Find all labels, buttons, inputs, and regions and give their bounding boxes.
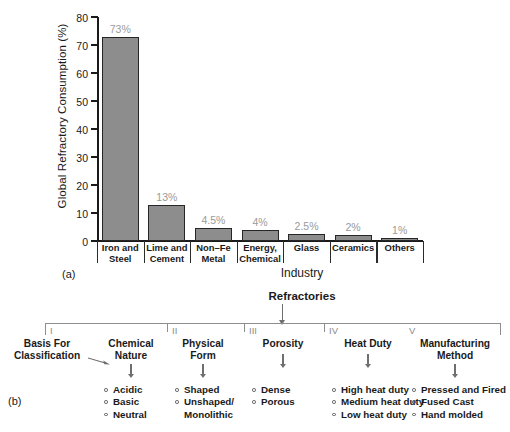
x-axis-title-text: Industry <box>281 266 324 280</box>
column-item-list: AcidicBasicNeutral <box>104 384 147 421</box>
y-tick-label: 10 <box>60 208 88 220</box>
bar <box>381 238 418 241</box>
list-item-label: Porous <box>261 396 295 407</box>
list-item[interactable]: Pressed and Fired <box>412 384 506 396</box>
bullet-circle-icon <box>252 388 256 392</box>
branch-numeral: IV <box>329 325 338 336</box>
bullet-circle-icon <box>332 400 336 404</box>
list-item[interactable]: Porous <box>252 396 295 408</box>
x-category-separator <box>97 241 98 263</box>
x-tick-label-line: Ceramics <box>330 243 377 254</box>
branch-drop-line <box>500 323 501 335</box>
column-arrow-head-icon <box>365 364 371 368</box>
list-item[interactable]: Neutral <box>104 409 147 421</box>
list-item-label: Shaped <box>184 384 219 395</box>
column-title: ChemicalNature <box>91 338 171 361</box>
list-item[interactable]: Medium heat duty <box>332 396 424 408</box>
list-item-label: Dense <box>261 384 290 395</box>
branch-numeral: III <box>249 325 257 336</box>
x-tick-label-line: Iron and <box>97 243 144 254</box>
list-item-label: Acidic <box>113 384 142 395</box>
y-axis-title: Global Refractory Consumption (%) <box>56 6 68 226</box>
list-item-label: High heat duty <box>341 384 409 395</box>
bar <box>148 205 185 241</box>
list-item[interactable]: Low heat duty <box>332 409 424 421</box>
column-item-list: High heat dutyMedium heat dutyLow heat d… <box>332 384 424 421</box>
column-title-line: Manufacturing <box>400 338 510 350</box>
classification-diagram-panel: Refractories IIIIIIIVV Basis ForClassifi… <box>0 290 510 432</box>
y-tick-label: 40 <box>60 124 88 136</box>
column-arrow-head-icon <box>452 374 458 378</box>
list-item[interactable]: Acidic <box>104 384 147 396</box>
x-tick-label: Glass <box>283 243 330 254</box>
bar-series <box>97 17 423 241</box>
column-title: Porosity <box>243 338 323 350</box>
column-item-list: Pressed and FiredFused CastHand molded <box>412 384 506 421</box>
bullet-circle-icon <box>252 400 256 404</box>
branch-drop-line <box>324 323 325 332</box>
diagram-column: PhysicalForm <box>160 338 246 361</box>
y-tick-label: 80 <box>60 12 88 24</box>
column-title-line: Nature <box>91 350 171 362</box>
basis-label-line: Classification <box>4 350 90 362</box>
list-item[interactable]: Shaped <box>175 384 234 396</box>
column-title-line: Form <box>160 350 246 362</box>
branch-numeral: II <box>172 325 177 336</box>
x-tick-label-line: Metal <box>190 254 237 265</box>
bullet-circle-icon <box>412 388 416 392</box>
list-item[interactable]: High heat duty <box>332 384 424 396</box>
column-arrow-head-icon <box>280 364 286 368</box>
bullet-circle-icon <box>104 388 108 392</box>
diagram-column: Porosity <box>243 338 323 350</box>
column-title-line: Physical <box>160 338 246 350</box>
bar-value-label: 1% <box>372 224 427 236</box>
list-item[interactable]: Basic <box>104 396 147 408</box>
branch-drop-line <box>45 323 46 335</box>
bar-value-label: 13% <box>140 191 195 203</box>
bullet-circle-icon <box>412 400 416 404</box>
x-tick-label-line: Steel <box>97 254 144 265</box>
y-tick-label: 0 <box>60 236 88 248</box>
bar <box>195 228 232 241</box>
column-item-list: DensePorous <box>252 384 295 409</box>
bar <box>102 37 139 241</box>
column-item-list: ShapedUnshaped/Monolithic <box>175 384 234 421</box>
y-tick-label: 70 <box>60 40 88 52</box>
list-item-label: Neutral <box>113 409 147 420</box>
y-tick-label: 30 <box>60 152 88 164</box>
list-item-label: Fused Cast <box>421 396 474 407</box>
x-tick-label: Non–FeMetal <box>190 243 237 264</box>
bar <box>335 235 372 241</box>
x-tick-label: Energy,Chemical <box>237 243 284 264</box>
x-tick-label: Ceramics <box>330 243 377 254</box>
list-item[interactable]: Hand molded <box>412 409 506 421</box>
list-item[interactable]: Fused Cast <box>412 396 506 408</box>
list-item[interactable]: Dense <box>252 384 295 396</box>
y-tick-label: 60 <box>60 68 88 80</box>
y-tick-label: 50 <box>60 96 88 108</box>
list-item-label: Basic <box>113 396 139 407</box>
branch-numeral: V <box>409 325 415 336</box>
diagram-horizontal-bus <box>45 323 501 324</box>
bullet-circle-icon <box>332 388 336 392</box>
x-axis-title: Industry <box>0 266 510 280</box>
x-tick-label-line: Others <box>376 243 423 254</box>
x-tick-label-line: Cement <box>144 254 191 265</box>
bullet-circle-icon <box>104 400 108 404</box>
x-tick-label-line: Non–Fe <box>190 243 237 254</box>
bullet-circle-icon <box>175 400 179 404</box>
list-item-label: Unshaped/ <box>184 396 234 407</box>
diagram-column: ChemicalNature <box>91 338 171 361</box>
bar-chart-panel: Global Refractory Consumption (%) 010203… <box>0 0 510 290</box>
list-item-continuation: Monolithic <box>175 409 234 421</box>
list-item[interactable]: Unshaped/ <box>175 396 234 408</box>
diagram-column: ManufacturingMethod <box>400 338 510 361</box>
bullet-circle-icon <box>412 413 416 417</box>
diagram-root-title-text: Refractories <box>268 290 335 302</box>
branch-numeral: I <box>50 325 53 336</box>
x-tick-label-line: Lime and <box>144 243 191 254</box>
branch-drop-line <box>244 323 245 332</box>
x-tick-label: Others <box>376 243 423 254</box>
x-tick-label: Lime andCement <box>144 243 191 264</box>
x-tick-label: Iron andSteel <box>97 243 144 264</box>
